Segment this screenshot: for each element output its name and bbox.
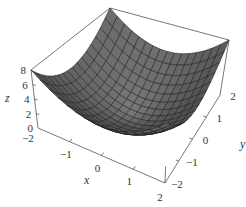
z-tick-label: 0 [28, 122, 34, 134]
z-axis-label: z [4, 91, 10, 105]
z-tick-label: 6 [22, 79, 28, 91]
x-tick-label: −1 [60, 148, 72, 160]
x-tick-label: 0 [95, 162, 101, 174]
y-axis-label: y [239, 137, 246, 151]
y-tick [203, 116, 206, 117]
box-edge-vertical-front [165, 167, 166, 184]
y-tick-label: −2 [171, 178, 183, 190]
paraboloid-surface [31, 8, 229, 135]
y-tick [190, 138, 193, 139]
y-tick-label: 0 [203, 134, 209, 146]
x-tick [102, 153, 104, 156]
z-tick-label: 8 [21, 64, 27, 76]
x-tick-label: 1 [127, 175, 133, 187]
x-tick-label: 2 [157, 191, 163, 203]
x-axis-label: x [83, 173, 90, 187]
x-tick [70, 139, 72, 142]
z-tick-label: 4 [24, 93, 30, 105]
z-tick-label: 2 [26, 108, 32, 120]
y-tick-label: −1 [186, 156, 198, 168]
x-tick [133, 166, 135, 169]
y-tick [176, 160, 179, 161]
surface-plot: −2−1012−2−101202468 z x y [0, 0, 246, 207]
y-tick-label: 2 [230, 90, 236, 102]
y-tick-label: 1 [217, 112, 223, 124]
